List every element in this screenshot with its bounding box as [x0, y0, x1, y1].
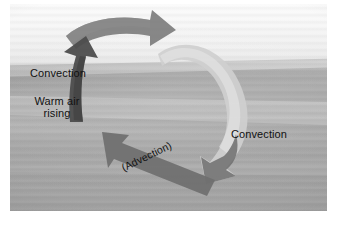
- photo-plate: Convection Warm air rising Convection (A…: [10, 4, 327, 211]
- convection-figure: Convection Warm air rising Convection (A…: [0, 0, 338, 227]
- label-convection-right: Convection: [231, 128, 287, 140]
- bottom-arrow: [102, 132, 215, 196]
- label-convection-left: Convection: [30, 67, 86, 79]
- label-warm-air-rising: Warm air rising: [29, 95, 85, 119]
